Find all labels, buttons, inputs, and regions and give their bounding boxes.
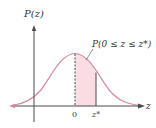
shaded-area — [75, 54, 96, 107]
area-leader-line — [86, 49, 93, 60]
y-axis-label: P(z) — [23, 8, 44, 19]
y-axis-arrow — [32, 25, 36, 31]
tick-zstar: z* — [91, 110, 100, 119]
x-axis-label: z — [145, 101, 151, 111]
x-axis-arrow-right — [138, 104, 145, 109]
x-axis-arrow-left — [9, 104, 15, 108]
tick-zero: 0 — [72, 110, 77, 119]
normal-distribution-diagram: P(z) P(0 ≤ z ≤ z*) z 0 z* — [0, 0, 156, 128]
area-label: P(0 ≤ z ≤ z*) — [91, 39, 152, 49]
